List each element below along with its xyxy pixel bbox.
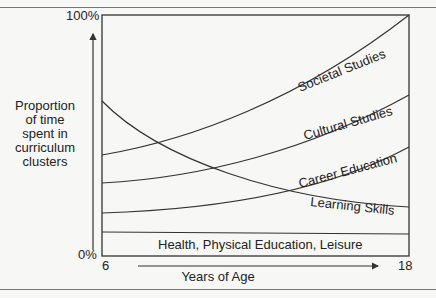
health-label: Health, Physical Education, Leisure	[158, 237, 363, 252]
health-boundary-line	[102, 232, 409, 234]
plot-frame	[102, 15, 409, 256]
chart-plot: Societal Studies Cultural Studies Career…	[0, 0, 436, 298]
societal-studies-line	[102, 15, 409, 155]
societal-studies-label: Societal Studies	[296, 46, 389, 95]
career-education-label: Career Education	[297, 150, 399, 191]
bottom-rule	[0, 289, 436, 290]
cultural-studies-label: Cultural Studies	[302, 103, 395, 143]
learning-skills-label: Learning Skills	[310, 194, 396, 218]
